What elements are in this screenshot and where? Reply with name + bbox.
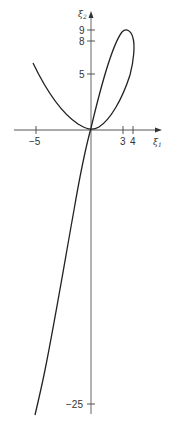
- x-tick-label-neg5: −5: [29, 136, 41, 147]
- y-tick-label-neg25: −25: [66, 399, 83, 410]
- y-axis-label: ξ2: [78, 9, 87, 20]
- y-tick-label-9: 9: [79, 25, 85, 36]
- x-axis-arrow-icon: [155, 128, 162, 133]
- x-tick-label-4: 4: [130, 136, 136, 147]
- y-tick-label-5: 5: [79, 69, 85, 80]
- y-tick-label-8: 8: [79, 36, 85, 47]
- phase-plot: −5 3 4 9 8 5 −25 ξ2 ξ1: [0, 0, 169, 427]
- x-tick-label-3: 3: [120, 136, 126, 147]
- x-axis-label: ξ1: [153, 137, 162, 148]
- y-axis-arrow-icon: [89, 11, 94, 18]
